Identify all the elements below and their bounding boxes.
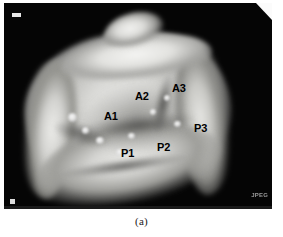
panel-bottom-edge xyxy=(4,206,272,209)
tissue-speckle xyxy=(128,133,135,139)
figure-caption: (a) xyxy=(0,215,283,227)
three-d-volume-render xyxy=(24,17,236,205)
scallop-label-p3: P3 xyxy=(194,122,207,134)
page-corner-fold-icon xyxy=(256,3,272,20)
scallop-label-a2: A2 xyxy=(135,90,149,102)
scallop-label-a1: A1 xyxy=(104,110,118,122)
tissue-speckle xyxy=(96,137,104,144)
tissue-speckle xyxy=(174,121,181,127)
jpeg-watermark: JPEG xyxy=(251,192,268,198)
modality-marker-icon xyxy=(12,13,21,17)
tissue-speckle xyxy=(68,113,77,122)
scallop-label-p1: P1 xyxy=(121,147,134,159)
corner-calibration-marker-icon xyxy=(10,199,15,204)
tissue-speckle xyxy=(82,127,89,134)
ultrasound-image-panel: JPEG A1 A2 A3 P1 P2 P3 xyxy=(4,3,272,209)
tissue-speckle xyxy=(164,95,170,101)
scallop-label-a3: A3 xyxy=(172,82,186,94)
figure-container: JPEG A1 A2 A3 P1 P2 P3 (a) xyxy=(0,0,283,237)
scallop-label-p2: P2 xyxy=(157,141,170,153)
tissue-speckle xyxy=(150,109,156,115)
